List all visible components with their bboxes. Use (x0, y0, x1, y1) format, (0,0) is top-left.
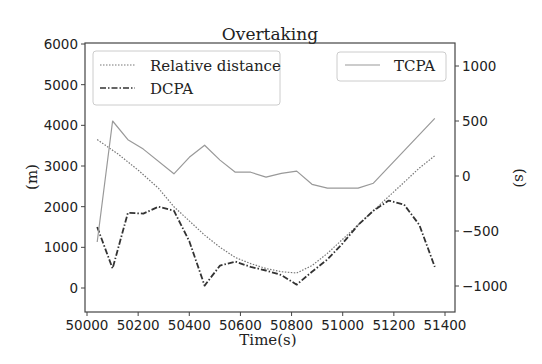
left-y-tick-label: 0 (69, 280, 78, 296)
x-tick-label: 50400 (168, 317, 211, 333)
legend-left: Relative distance DCPA (93, 51, 281, 105)
right-y-tick-label: 500 (462, 113, 488, 129)
legend-right: TCPA (337, 52, 446, 81)
right-y-tick-label: 0 (462, 168, 471, 184)
right-y-tick-label: −500 (462, 223, 499, 239)
x-tick-label: 51400 (424, 317, 467, 333)
x-tick-label: 50200 (117, 317, 160, 333)
left-y-tick-label: 2000 (44, 199, 78, 215)
right-y-tick-label: 1000 (462, 58, 496, 74)
legend-tcpa-label: TCPA (394, 57, 435, 75)
left-y-axis-ticks: 0100020003000400050006000 (44, 36, 85, 296)
plot-lines (97, 118, 435, 285)
right-y-tick-label: −1000 (462, 278, 508, 294)
left-y-tick-label: 5000 (44, 77, 78, 93)
right-y-axis-ticks: −1000−50005001000 (455, 58, 508, 294)
right-y-axis-label: (s) (511, 168, 529, 187)
series-line-relative-distance (97, 140, 435, 273)
x-axis-label: Time(s) (239, 331, 296, 349)
x-tick-label: 51200 (372, 317, 415, 333)
x-tick-label: 50000 (66, 317, 109, 333)
left-y-tick-label: 3000 (44, 158, 78, 174)
x-axis-ticks: 5000050200504005060050800510005120051400 (66, 312, 467, 333)
left-y-tick-label: 1000 (44, 239, 78, 255)
x-tick-label: 51000 (321, 317, 364, 333)
left-y-tick-label: 4000 (44, 117, 78, 133)
left-y-axis-label: (m) (23, 164, 41, 190)
legend-relative-distance-label: Relative distance (150, 57, 281, 75)
legend-dcpa-label: DCPA (150, 80, 193, 98)
chart-title: Overtaking (222, 24, 318, 44)
chart: 5000050200504005060050800510005120051400… (0, 0, 542, 364)
series-line-dcpa (97, 201, 435, 286)
series-line-tcpa (97, 118, 435, 242)
left-y-tick-label: 6000 (44, 36, 78, 52)
